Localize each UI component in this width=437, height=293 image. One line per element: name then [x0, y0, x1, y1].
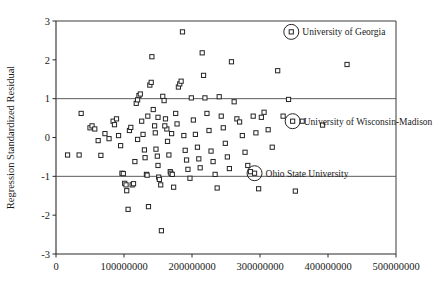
data-point [79, 111, 83, 115]
x-tick-label: 300000000 [236, 261, 283, 272]
data-point [131, 182, 135, 186]
data-point [227, 166, 231, 170]
data-point [129, 125, 133, 129]
highlighted-data-point [291, 119, 295, 123]
data-point [153, 124, 157, 128]
data-point [175, 122, 179, 126]
data-point [293, 189, 297, 193]
callout-label: University of Wisconsin-Madison [304, 117, 433, 127]
data-point [200, 51, 204, 55]
highlighted-data-point [289, 30, 293, 34]
highlighted-data-point [252, 171, 256, 175]
data-point [172, 185, 176, 189]
data-point [119, 144, 123, 148]
data-point [170, 132, 174, 136]
y-tick-label: -1 [41, 171, 50, 182]
data-point [259, 115, 263, 119]
data-point [96, 139, 100, 143]
scatter-plot-figure: -3-2-10123010000000020000000030000000040… [0, 0, 437, 293]
data-point [240, 133, 244, 137]
data-point [229, 60, 233, 64]
y-tick-label: 0 [45, 132, 50, 143]
data-point [121, 172, 125, 176]
data-point [205, 111, 209, 115]
data-point [246, 163, 250, 167]
data-point [180, 30, 184, 34]
data-point [136, 137, 140, 141]
data-point [163, 117, 167, 121]
data-point [183, 148, 187, 152]
x-tick-label: 200000000 [168, 261, 215, 272]
data-point [77, 153, 81, 157]
data-point [189, 96, 193, 100]
data-point [211, 159, 215, 163]
data-point [141, 132, 145, 136]
data-point [170, 172, 174, 176]
data-point [162, 99, 166, 103]
data-point [159, 229, 163, 233]
data-point [182, 133, 186, 137]
data-point [156, 115, 160, 119]
x-tick-label: 0 [53, 261, 58, 272]
data-point [65, 153, 69, 157]
data-point [198, 166, 202, 170]
data-point [186, 167, 190, 171]
data-point [103, 132, 107, 136]
data-point [248, 170, 252, 174]
data-point [262, 110, 266, 114]
y-tick-label: -3 [41, 249, 50, 260]
data-point [223, 141, 227, 145]
y-axis-title: Regression Standardized Residual [5, 66, 16, 210]
data-point [188, 176, 192, 180]
data-point [195, 145, 199, 149]
data-point [251, 114, 255, 118]
data-point [243, 150, 247, 154]
data-point [221, 126, 225, 130]
data-point [159, 183, 163, 187]
y-tick-label: -2 [41, 210, 50, 221]
data-point [133, 159, 137, 163]
data-point [225, 155, 229, 159]
x-tick-label: 400000000 [304, 261, 351, 272]
data-point [156, 163, 160, 167]
data-point [174, 111, 178, 115]
data-point [124, 183, 128, 187]
y-tick-label: 3 [45, 16, 50, 27]
data-point [93, 127, 97, 131]
data-point [286, 97, 290, 101]
data-point [116, 133, 120, 137]
data-point [179, 79, 183, 83]
data-point [142, 148, 146, 152]
axis-label-layer: Regression Standardized Residual [5, 66, 16, 210]
data-point [163, 124, 167, 128]
data-point [232, 100, 236, 104]
data-point [167, 153, 171, 157]
data-point [153, 131, 157, 135]
data-point [257, 187, 261, 191]
data-point [99, 153, 103, 157]
data-points-layer [65, 30, 349, 233]
data-point [207, 128, 211, 132]
data-point [149, 80, 153, 84]
data-point [270, 145, 274, 149]
axis-layer: -3-2-10123010000000020000000030000000040… [41, 16, 419, 272]
annotation-layer: University of GeorgiaUniversity of Wisco… [247, 24, 433, 180]
data-point [138, 92, 142, 96]
data-point [219, 114, 223, 118]
data-point [281, 114, 285, 118]
data-point [197, 157, 201, 161]
x-tick-label: 500000000 [372, 261, 419, 272]
data-point [201, 73, 205, 77]
data-point [209, 149, 213, 153]
data-point [154, 147, 158, 151]
data-point [213, 172, 217, 176]
data-point [191, 118, 195, 122]
data-point [136, 98, 140, 102]
data-point [125, 189, 129, 193]
data-point [146, 205, 150, 209]
data-point [276, 69, 280, 73]
data-point [145, 173, 149, 177]
data-point [155, 154, 159, 158]
callout-label: Ohio State University [266, 169, 349, 179]
plot-svg: -3-2-10123010000000020000000030000000040… [0, 0, 437, 293]
